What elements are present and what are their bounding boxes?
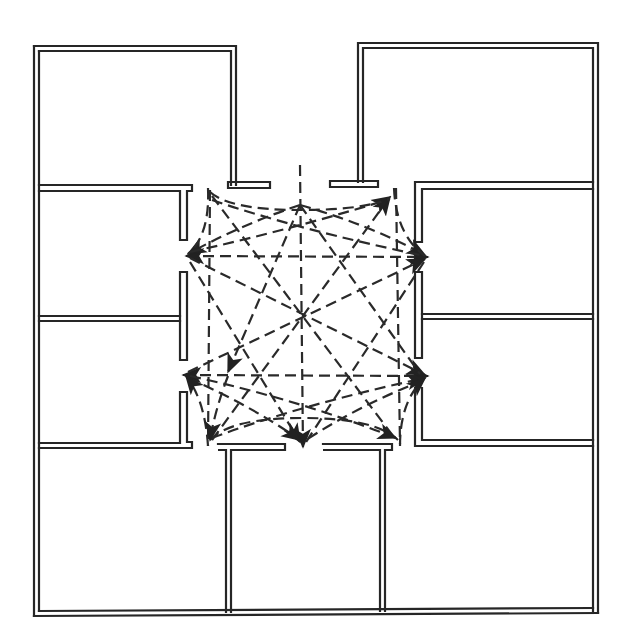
wall-bottom-inner — [39, 608, 593, 611]
wall-stub-top-left — [228, 182, 270, 188]
path-BL-to-R2 — [212, 378, 425, 438]
path-TR-corner-curve — [394, 188, 425, 256]
wall-left-divider-2 — [39, 316, 180, 321]
floor-plan-canvas — [0, 0, 622, 643]
wall-right-divider-1 — [415, 182, 593, 242]
path-L2-to-bottom — [188, 378, 300, 440]
path-lower-horizontal — [183, 375, 428, 376]
room-top-right-walls — [358, 43, 598, 613]
wall-stub-bottom-right — [323, 444, 392, 611]
path-R2-to-bottom — [306, 380, 424, 440]
wall-right-divider-2 — [422, 314, 593, 319]
path-TL-to-R1 — [212, 200, 425, 256]
wall-bottom — [34, 613, 598, 616]
walls — [34, 43, 598, 616]
path-upper-horizontal — [186, 256, 428, 257]
wall-stub-bottom-left — [218, 444, 285, 612]
wall-right-jamb-2 — [415, 388, 593, 446]
wall-stub-top-right — [330, 181, 378, 187]
room-top-left-walls — [34, 46, 236, 616]
wall-left-jamb-2 — [39, 392, 192, 448]
path-left-vertical — [208, 190, 210, 446]
path-right-vertical — [396, 188, 400, 444]
floor-plan-diagram — [0, 0, 622, 643]
wall-left-divider-1 — [39, 185, 192, 240]
circulation-paths — [183, 165, 428, 447]
path-top-to-R1 — [300, 205, 425, 255]
